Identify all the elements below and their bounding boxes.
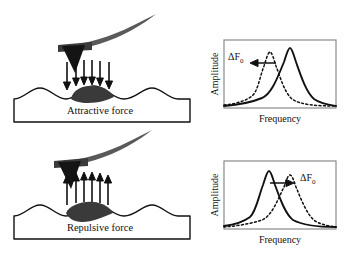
resonance-shift-chart-repulsive: ΔF0 Amplitude Frequency bbox=[200, 139, 344, 258]
resonance-shift-chart-attractive: ΔF0 Amplitude Frequency bbox=[200, 10, 344, 129]
y-axis-label: Amplitude bbox=[209, 173, 220, 216]
panel-resonance-plot-attractive: ΔF0 Amplitude Frequency bbox=[200, 10, 344, 129]
panel-repulsive-caption: Repulsive force bbox=[67, 222, 134, 233]
panel-attractive-caption: Attractive force bbox=[67, 105, 134, 116]
attractive-schematic: Attractive force bbox=[0, 0, 200, 129]
repulsive-schematic: Repulsive force bbox=[0, 129, 200, 258]
afm-force-modes-figure: Attractive force bbox=[0, 0, 344, 258]
y-axis-label: Amplitude bbox=[209, 52, 220, 95]
x-axis-label: Frequency bbox=[259, 113, 301, 124]
afm-tip-icon bbox=[58, 161, 81, 189]
afm-tip-icon bbox=[62, 45, 85, 73]
panel-resonance-plot-repulsive: ΔF0 Amplitude Frequency bbox=[200, 139, 344, 258]
panel-repulsive-force: Repulsive force bbox=[0, 129, 200, 258]
panel-attractive-force: Attractive force bbox=[0, 0, 200, 129]
x-axis-label: Frequency bbox=[259, 234, 301, 245]
force-arrows-down bbox=[63, 60, 112, 90]
